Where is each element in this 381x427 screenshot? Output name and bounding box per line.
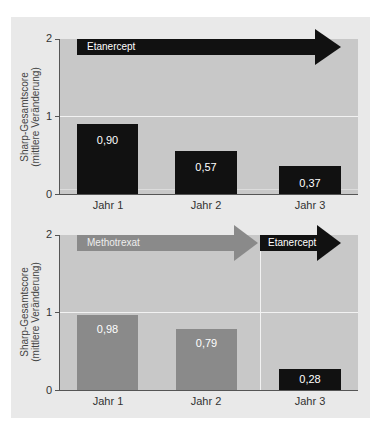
x-axis bbox=[55, 390, 358, 391]
bar-jahr-3: 0,28 bbox=[279, 369, 341, 390]
y-axis bbox=[59, 235, 60, 391]
x-label-jahr-3: Jahr 3 bbox=[280, 395, 340, 407]
chart-methotrexat-then-etanercept: 2 1 0 Sharp-Gesamtscore (mittlere Veränd… bbox=[0, 0, 381, 427]
arrow-head bbox=[234, 225, 258, 261]
arrow-head bbox=[317, 225, 341, 261]
arrow-label: Methotrexat bbox=[87, 237, 140, 248]
gridline-1 bbox=[59, 312, 358, 313]
y-tick-label-0: 0 bbox=[38, 384, 52, 396]
y-axis-label-line1: Sharp-Gesamtscore bbox=[19, 252, 30, 372]
y-axis-label-line2: (mittlere Veränderung) bbox=[30, 252, 41, 372]
y-axis-label: Sharp-Gesamtscore (mittlere Veränderung) bbox=[19, 252, 43, 372]
y-tick-label-2: 2 bbox=[38, 228, 52, 240]
arrow-etanercept: Etanercept bbox=[260, 225, 342, 261]
bar-value-label: 0,98 bbox=[77, 323, 138, 335]
arrow-label: Etanercept bbox=[268, 237, 316, 248]
y-tick-2 bbox=[55, 235, 60, 236]
x-label-jahr-2: Jahr 2 bbox=[176, 395, 236, 407]
arrow-methotrexat: Methotrexat bbox=[77, 225, 259, 261]
bar-jahr-1: 0,98 bbox=[77, 315, 138, 390]
x-label-jahr-1: Jahr 1 bbox=[78, 395, 138, 407]
y-tick-1 bbox=[55, 312, 60, 313]
bar-jahr-2: 0,79 bbox=[176, 329, 237, 390]
bar-value-label: 0,79 bbox=[176, 337, 237, 349]
bar-value-label: 0,28 bbox=[279, 373, 341, 385]
